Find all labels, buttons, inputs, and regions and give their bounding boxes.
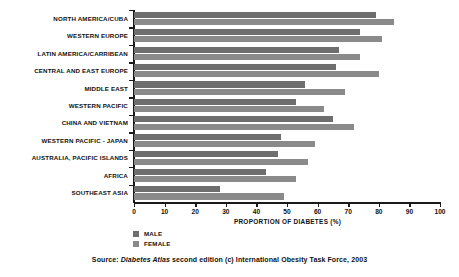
bar-female [134,176,296,182]
category-label: WESTERN PACIFIC [69,102,128,109]
x-tick [440,204,441,207]
category-label: CHINA AND VIETNAM [62,119,128,126]
x-tick [256,204,257,207]
bar-female [134,159,308,165]
bar-male [134,151,278,157]
bar-group [134,185,440,202]
bar-female [134,141,315,147]
x-tick-label: 50 [283,208,290,215]
category-label: WESTERN PACIFIC - JAPAN [42,137,128,144]
x-tick-label: 100 [434,208,445,215]
diabetes-proportion-bar-chart: NORTH AMERICA/CUBAWESTERN EUROPELATIN AM… [0,0,459,277]
category-label: WESTERN EUROPE [67,32,128,39]
legend-item-male: MALE [133,229,171,238]
bar-group [134,150,440,167]
x-tick-label: 90 [406,208,413,215]
x-axis-title: PROPORTION OF DIABETES (%) [134,218,441,225]
legend-label-male: MALE [144,230,162,237]
bar-male [134,116,333,122]
bar-male [134,99,296,105]
x-tick [195,204,196,207]
legend: MALE FEMALE [133,229,171,249]
x-tick [379,204,380,207]
bar-female [134,71,379,77]
x-tick-label: 40 [253,208,260,215]
bar-female [134,193,284,199]
x-tick-label: 0 [132,208,136,215]
x-tick [134,204,135,207]
bar-male [134,169,266,175]
bar-male [134,81,305,87]
category-labels: NORTH AMERICA/CUBAWESTERN EUROPELATIN AM… [0,10,130,202]
plot-area [134,10,440,202]
x-tick [226,204,227,207]
x-tick-label: 20 [192,208,199,215]
bar-female [134,36,382,42]
legend-swatch-male [133,231,139,237]
category-label: AFRICA [104,172,128,179]
x-tick [409,204,410,207]
source-title: Diabetes Atlas [121,256,170,263]
source-suffix: second edition (c) International Obesity… [172,256,367,263]
bar-male [134,29,360,35]
bar-female [134,19,394,25]
x-tick-label: 80 [375,208,382,215]
bar-group [134,115,440,132]
category-label: CENTRAL AND EAST EUROPE [34,67,128,74]
legend-label-female: FEMALE [144,240,171,247]
x-tick [165,204,166,207]
bar-male [134,47,339,53]
category-label: AUSTRALIA, PACIFIC ISLANDS [32,154,128,161]
bar-female [134,89,345,95]
source-prefix: Source: [92,256,119,263]
bar-female [134,54,360,60]
bar-group [134,167,440,184]
source-caption: Source: Diabetes Atlas second edition (c… [0,256,459,263]
bar-group [134,132,440,149]
bar-group [134,62,440,79]
category-label: MIDDLE EAST [84,85,128,92]
x-tick [287,204,288,207]
bar-female [134,106,324,112]
legend-item-female: FEMALE [133,239,171,248]
bar-male [134,12,376,18]
x-tick [318,204,319,207]
x-tick-label: 10 [161,208,168,215]
legend-swatch-female [133,241,139,247]
bar-male [134,134,281,140]
bar-group [134,97,440,114]
x-tick-label: 70 [345,208,352,215]
bar-group [134,45,440,62]
bar-male [134,186,220,192]
bar-male [134,64,336,70]
x-tick-label: 30 [222,208,229,215]
category-label: NORTH AMERICA/CUBA [53,15,128,22]
x-tick-label: 60 [314,208,321,215]
bar-female [134,124,354,130]
bar-group [134,27,440,44]
x-tick [348,204,349,207]
bar-group [134,10,440,27]
bar-group [134,80,440,97]
category-label: LATIN AMERICA/CARRIBEAN [38,50,128,57]
category-label: SOUTHEAST ASIA [71,189,128,196]
